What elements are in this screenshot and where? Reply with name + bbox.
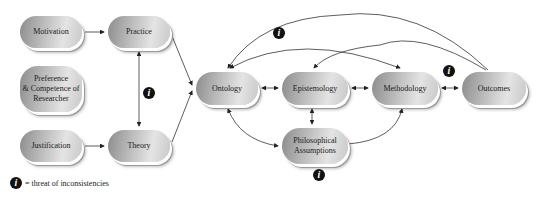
node-label: Practice [126, 27, 152, 37]
legend-text: = threat of inconsistencies [25, 179, 109, 188]
node-label: Philosophical Assumptions [293, 136, 337, 156]
node-outcomes: Outcomes [462, 72, 526, 105]
node-practice: Practice [108, 16, 170, 48]
node-label: Motivation [33, 27, 69, 37]
edge-practice-ontology [172, 36, 192, 85]
node-theory: Theory [108, 130, 170, 162]
node-label: Justification [31, 141, 70, 151]
edge-outcomes-ontology [228, 14, 488, 70]
edge-outcomes-epistemology [314, 41, 486, 70]
node-label: Theory [127, 141, 150, 151]
node-label: Outcomes [478, 84, 510, 94]
edge-philosophical-methodology [348, 109, 402, 144]
info-icon: i [443, 65, 455, 77]
edge-ontology-philosophical [228, 109, 278, 146]
node-preference-competence: Preference & Competence of Researcher [20, 66, 82, 112]
node-motivation: Motivation [20, 16, 82, 48]
node-label: Ontology [212, 84, 242, 94]
info-icon: i [273, 27, 285, 39]
info-icon: i [10, 177, 22, 189]
node-justification: Justification [20, 130, 82, 162]
node-epistemology: Epistemology [282, 72, 348, 105]
edge-theory-ontology [172, 91, 192, 142]
node-label: Methodology [383, 84, 426, 94]
research-framework-diagram: Motivation Practice Preference & Compete… [0, 0, 543, 200]
info-icon: i [313, 169, 325, 181]
node-philosophical-assumptions: Philosophical Assumptions [282, 128, 348, 164]
node-methodology: Methodology [372, 72, 438, 105]
info-icon: i [143, 87, 155, 99]
node-label: Epistemology [293, 84, 337, 94]
edge-ontology-methodology [230, 49, 400, 68]
node-label: Preference & Competence of Researcher [23, 74, 80, 104]
legend: i = threat of inconsistencies [10, 177, 109, 189]
node-ontology: Ontology [196, 72, 258, 105]
